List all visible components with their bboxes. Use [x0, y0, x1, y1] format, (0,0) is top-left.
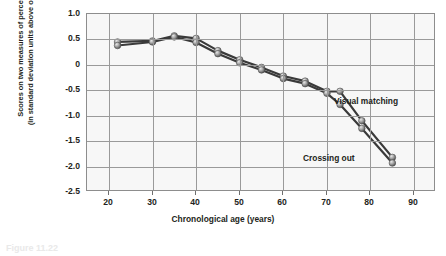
- x-tickmark-80: [369, 191, 370, 195]
- y-tick-label-neg1-5: -1.5: [50, 136, 80, 145]
- x-tick-label-50: 50: [224, 198, 254, 207]
- gridline-x-90: [414, 14, 415, 190]
- x-tickmark-50: [239, 191, 240, 195]
- x-tick-label-20: 20: [93, 198, 123, 207]
- y-tick-label-neg1-0: -1.0: [50, 111, 80, 120]
- data-point: [114, 42, 121, 49]
- gridline-x-50: [240, 14, 241, 190]
- gridline-x-60: [283, 14, 284, 190]
- gridline-y-neg2-0: [87, 167, 434, 168]
- x-tickmark-90: [413, 191, 414, 195]
- x-tick-label-90: 90: [398, 198, 428, 207]
- data-point: [359, 118, 366, 125]
- x-tick-label-40: 40: [180, 198, 210, 207]
- data-point: [215, 50, 222, 57]
- data-point: [302, 80, 309, 87]
- gridline-x-30: [153, 14, 154, 190]
- x-tick-label-80: 80: [354, 198, 384, 207]
- gridline-x-20: [109, 14, 110, 190]
- gridline-y-neg1-0: [87, 116, 434, 117]
- figure-caption: Figure 11.22: [6, 243, 58, 253]
- y-tick-label-neg2-5: -2.5: [50, 187, 80, 196]
- series-label-crossing-out: Crossing out: [303, 153, 355, 163]
- x-tickmark-40: [195, 191, 196, 195]
- y-tick-label-1-0: 1.0: [50, 9, 80, 18]
- x-tickmark-70: [326, 191, 327, 195]
- x-axis-title: Chronological age (years): [0, 214, 446, 224]
- x-tickmark-20: [108, 191, 109, 195]
- data-point: [389, 160, 396, 167]
- gridline-y-0-5: [87, 39, 434, 40]
- gridline-y-neg0-5: [87, 90, 434, 91]
- x-tick-label-70: 70: [311, 198, 341, 207]
- x-tick-label-60: 60: [267, 198, 297, 207]
- y-tick-label-0: 0: [50, 60, 80, 69]
- figure-container: Scores on two measures of perceptual spe…: [0, 0, 446, 256]
- x-tickmark-30: [152, 191, 153, 195]
- x-tick-label-30: 30: [137, 198, 167, 207]
- gridline-y-0: [87, 65, 434, 66]
- y-tick-label-neg2-0: -2.0: [50, 162, 80, 171]
- y-tick-label-neg0-5: -0.5: [50, 85, 80, 94]
- x-tickmark-60: [282, 191, 283, 195]
- series-label-visual-matching: Visual matching: [334, 96, 398, 106]
- gridline-y-neg1-5: [87, 141, 434, 142]
- data-point: [258, 67, 265, 74]
- gridline-x-70: [327, 14, 328, 190]
- gridline-x-40: [196, 14, 197, 190]
- y-tick-label-0-5: 0.5: [50, 34, 80, 43]
- data-point: [359, 125, 366, 132]
- data-point: [337, 88, 344, 95]
